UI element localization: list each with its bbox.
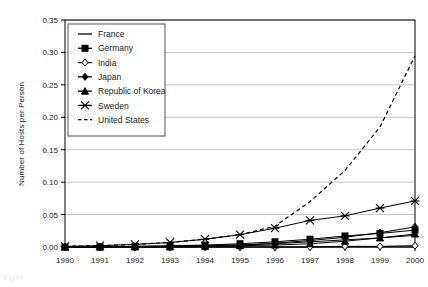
legend-label: France [98, 29, 125, 39]
x-tick-label: 1993 [161, 256, 179, 265]
y-tick-label: 0.10 [42, 178, 58, 187]
legend-item-japan[interactable]: Japan [78, 72, 121, 82]
y-axis-title: Number of Hosts per Person [17, 82, 26, 186]
x-tick-label: 1992 [126, 256, 144, 265]
x-tick-label: 1999 [371, 256, 389, 265]
x-tick-label: 1996 [266, 256, 284, 265]
y-tick-label: 0.20 [42, 113, 58, 122]
legend: FranceGermanyIndiaJapanRepublic of Korea… [68, 24, 166, 136]
x-tick-label: 1990 [56, 256, 74, 265]
x-tick-label: 1998 [336, 256, 354, 265]
y-tick-label: 0.15 [42, 146, 58, 155]
figure-container: 0.000.050.100.150.200.250.300.3519901991… [0, 0, 428, 287]
x-tick-label: 1991 [91, 256, 109, 265]
legend-label: United States [98, 115, 149, 125]
x-tick-label: 1997 [301, 256, 319, 265]
x-tick-label: 1994 [196, 256, 214, 265]
legend-label: Japan [98, 72, 121, 82]
marker-diamond-open [377, 243, 383, 250]
legend-label: Sweden [98, 101, 129, 111]
legend-label: Republic of Korea [98, 86, 166, 96]
y-tick-label: 0.35 [42, 16, 58, 25]
hosts-per-person-line-chart: 0.000.050.100.150.200.250.300.3519901991… [0, 0, 428, 287]
marker-square [82, 45, 88, 51]
x-tick-label: 1995 [231, 256, 249, 265]
legend-label: Germany [98, 43, 134, 53]
x-tick-label: 2000 [406, 256, 424, 265]
figure-caption: Figure [4, 274, 24, 281]
y-tick-label: 0.25 [42, 81, 58, 90]
marker-diamond-open [412, 242, 418, 249]
y-tick-label: 0.30 [42, 48, 58, 57]
y-tick-label: 0.05 [42, 211, 58, 220]
y-tick-label: 0.00 [42, 243, 58, 252]
legend-label: India [98, 58, 117, 68]
